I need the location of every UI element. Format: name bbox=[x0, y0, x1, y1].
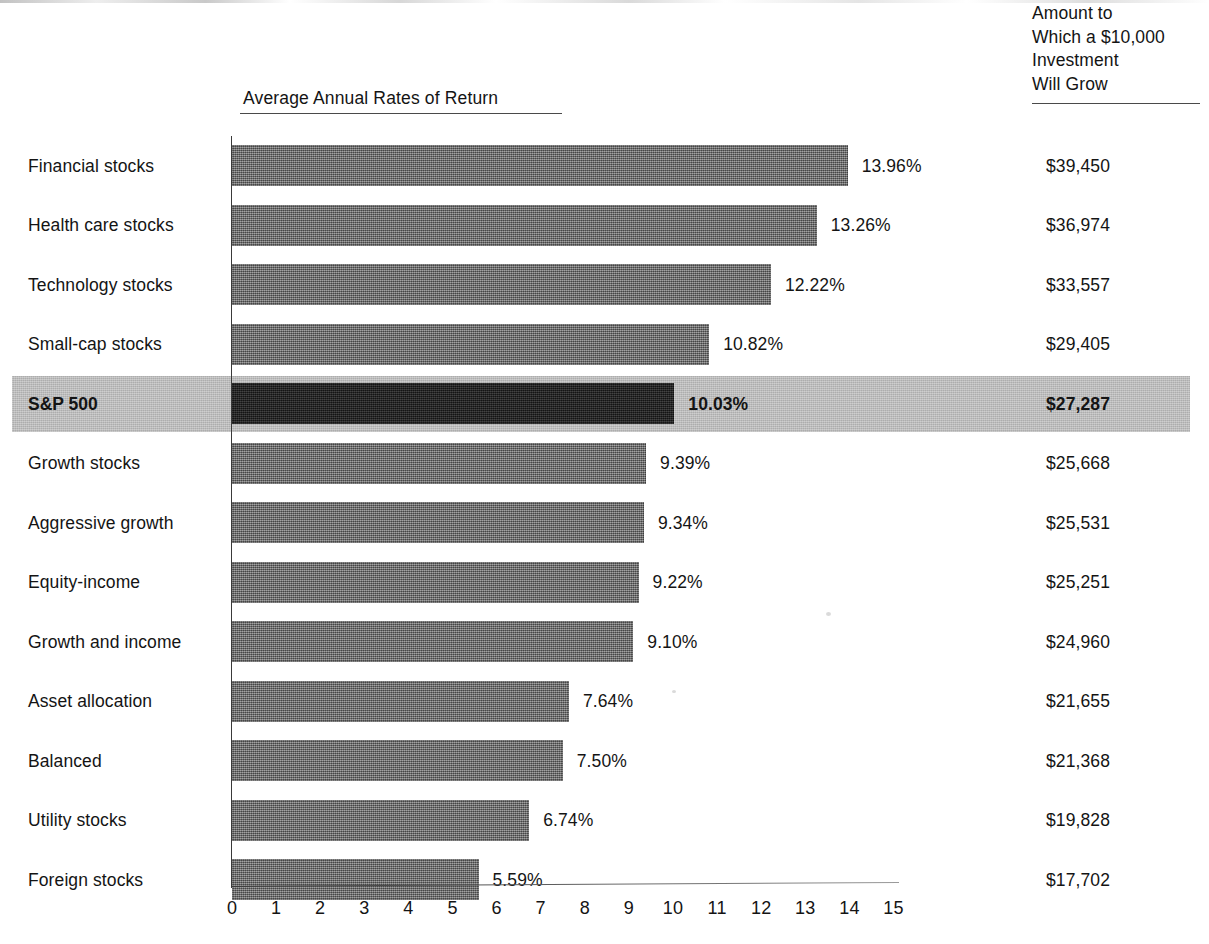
bar bbox=[232, 562, 639, 603]
bar bbox=[232, 264, 771, 305]
x-tick-label: 6 bbox=[491, 898, 501, 919]
scan-speck bbox=[672, 690, 676, 693]
x-tick-label: 8 bbox=[580, 898, 590, 919]
chart-row: Foreign stocks5.59%$17,702 bbox=[0, 850, 1209, 910]
amount-value: $25,251 bbox=[1046, 572, 1110, 593]
chart-row: Technology stocks12.22%$33,557 bbox=[0, 255, 1209, 315]
category-label: Foreign stocks bbox=[28, 869, 143, 890]
bar bbox=[232, 621, 633, 662]
bar-value-label: 9.34% bbox=[658, 512, 708, 533]
bar-chart-plot: Financial stocks13.96%$39,450Health care… bbox=[0, 0, 1209, 944]
amount-value: $39,450 bbox=[1046, 155, 1110, 176]
bar-value-label: 12.22% bbox=[785, 274, 845, 295]
amount-value: $21,368 bbox=[1046, 750, 1110, 771]
bar-value-label: 5.59% bbox=[493, 869, 543, 890]
bar-value-label: 9.39% bbox=[660, 453, 710, 474]
amount-value: $24,960 bbox=[1046, 631, 1110, 652]
category-label: Utility stocks bbox=[28, 810, 127, 831]
bar bbox=[232, 383, 674, 424]
x-tick-label: 5 bbox=[447, 898, 457, 919]
category-label: Balanced bbox=[28, 750, 102, 771]
bar bbox=[232, 740, 563, 781]
chart-row: Growth stocks9.39%$25,668 bbox=[0, 434, 1209, 494]
amount-value: $21,655 bbox=[1046, 691, 1110, 712]
y-axis-line bbox=[231, 136, 232, 888]
scan-speck bbox=[826, 612, 831, 616]
bar bbox=[232, 324, 709, 365]
category-label: Financial stocks bbox=[28, 155, 154, 176]
chart-row: Asset allocation7.64%$21,655 bbox=[0, 672, 1209, 732]
bar-value-label: 10.03% bbox=[688, 393, 748, 414]
x-tick-label: 14 bbox=[839, 898, 859, 919]
amount-value: $17,702 bbox=[1046, 869, 1110, 890]
x-tick-label: 3 bbox=[359, 898, 369, 919]
category-label: Growth stocks bbox=[28, 453, 140, 474]
amount-value: $33,557 bbox=[1046, 274, 1110, 295]
bar-value-label: 7.50% bbox=[577, 750, 627, 771]
bar bbox=[232, 681, 569, 722]
category-label: Aggressive growth bbox=[28, 512, 174, 533]
category-label: Growth and income bbox=[28, 631, 181, 652]
chart-row: S&P 50010.03%$27,287 bbox=[0, 374, 1209, 434]
bar-value-label: 9.10% bbox=[647, 631, 697, 652]
category-label: Equity-income bbox=[28, 572, 140, 593]
bar-value-label: 13.26% bbox=[831, 215, 891, 236]
bar bbox=[232, 443, 646, 484]
x-tick-label: 7 bbox=[536, 898, 546, 919]
bar-value-label: 9.22% bbox=[653, 572, 703, 593]
amount-value: $36,974 bbox=[1046, 215, 1110, 236]
chart-row: Utility stocks6.74%$19,828 bbox=[0, 791, 1209, 851]
bar bbox=[232, 859, 479, 900]
chart-row: Small-cap stocks10.82%$29,405 bbox=[0, 315, 1209, 375]
chart-row: Health care stocks13.26%$36,974 bbox=[0, 196, 1209, 256]
bar bbox=[232, 800, 529, 841]
category-label: Small-cap stocks bbox=[28, 334, 162, 355]
amount-value: $25,531 bbox=[1046, 512, 1110, 533]
x-tick-label: 2 bbox=[315, 898, 325, 919]
x-tick-label: 12 bbox=[751, 898, 771, 919]
bar bbox=[232, 205, 817, 246]
category-label: Technology stocks bbox=[28, 274, 173, 295]
bar-value-label: 13.96% bbox=[862, 155, 922, 176]
amount-value: $29,405 bbox=[1046, 334, 1110, 355]
amount-value: $19,828 bbox=[1046, 810, 1110, 831]
x-tick-label: 0 bbox=[227, 898, 237, 919]
category-label: S&P 500 bbox=[28, 393, 98, 414]
bar bbox=[232, 502, 644, 543]
bar bbox=[232, 145, 848, 186]
category-label: Health care stocks bbox=[28, 215, 174, 236]
x-tick-label: 13 bbox=[795, 898, 815, 919]
bar-value-label: 7.64% bbox=[583, 691, 633, 712]
chart-row: Growth and income9.10%$24,960 bbox=[0, 612, 1209, 672]
category-label: Asset allocation bbox=[28, 691, 152, 712]
x-tick-label: 1 bbox=[271, 898, 281, 919]
x-tick-label: 15 bbox=[883, 898, 903, 919]
amount-value: $25,668 bbox=[1046, 453, 1110, 474]
x-tick-label: 4 bbox=[403, 898, 413, 919]
x-tick-label: 10 bbox=[663, 898, 683, 919]
bar-value-label: 6.74% bbox=[543, 810, 593, 831]
bar-value-label: 10.82% bbox=[723, 334, 783, 355]
chart-row: Balanced7.50%$21,368 bbox=[0, 731, 1209, 791]
chart-row: Aggressive growth9.34%$25,531 bbox=[0, 493, 1209, 553]
chart-row: Financial stocks13.96%$39,450 bbox=[0, 136, 1209, 196]
x-tick-label: 11 bbox=[708, 898, 727, 919]
amount-value: $27,287 bbox=[1046, 393, 1110, 414]
x-tick-label: 9 bbox=[624, 898, 634, 919]
chart-row: Equity-income9.22%$25,251 bbox=[0, 553, 1209, 613]
